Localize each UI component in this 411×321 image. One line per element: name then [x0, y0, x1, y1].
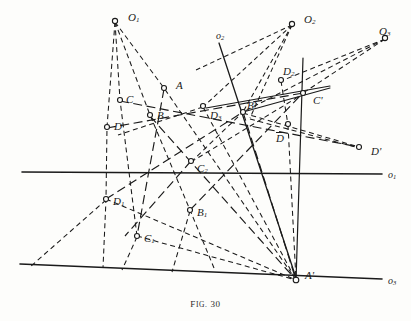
label-point-B: B [157, 110, 164, 121]
marker-D [105, 125, 110, 130]
marker-D3 [201, 104, 206, 109]
ray-O1-B-B1 [115, 22, 214, 268]
ray-O2-extended-left [196, 25, 292, 70]
marker-B1 [188, 208, 193, 213]
marker-D-prime [357, 145, 362, 150]
figure-plate: O1 O2 O3 o2 o1 o3 A B C D D1 C1 B1 C2 D3… [0, 0, 411, 321]
marker-C-prime [301, 91, 306, 96]
marker-C [118, 98, 123, 103]
geometry-diagram [0, 0, 411, 321]
label-point-D-bar: D [276, 132, 284, 144]
marker-C1 [135, 234, 140, 239]
long-dash-transversals [106, 89, 359, 280]
dashed-cross-connections [30, 81, 359, 280]
marker-A-prime [293, 277, 299, 283]
transversal-B-to-Aprime [150, 116, 296, 280]
label-center-O3: O3 [379, 26, 390, 38]
label-point-D: D [114, 121, 122, 132]
label-point-B1: B1 [197, 207, 207, 219]
ray-O3-to-D2 [281, 39, 385, 81]
marker-O2 [289, 21, 294, 26]
transversal-D-to-Cprime [107, 93, 303, 128]
label-point-D3: D3 [210, 110, 221, 122]
axis-o3-line [20, 264, 382, 279]
marker-B [148, 113, 153, 118]
label-axis-o3: o3 [388, 276, 396, 287]
ray-O3-to-Cprime [303, 39, 385, 93]
marker-B-prime [241, 110, 246, 115]
label-axis-o2: o2 [216, 31, 224, 42]
marker-C2 [189, 159, 194, 164]
label-point-D-prime: D' [371, 146, 382, 157]
transversal-C-to-Bprime-Dprime [120, 101, 359, 147]
marker-O1 [112, 18, 117, 23]
label-point-D2: D2 [283, 66, 294, 78]
marker-A [162, 86, 167, 91]
dashed-rays-from-O1 [103, 22, 296, 280]
label-point-A-prime: A' [305, 270, 315, 281]
figure-caption: FIG. 30 [0, 299, 411, 309]
marker-D2 [279, 78, 284, 83]
label-point-A: A [176, 80, 183, 91]
label-point-C1: C1 [144, 233, 155, 245]
transversal-right-fan [243, 112, 296, 280]
line-C1-to-Aprime [137, 236, 296, 280]
label-axis-o1: o1 [388, 170, 396, 181]
label-center-O2: O2 [304, 14, 315, 26]
line-Bprime-to-Dprime-lower [250, 119, 359, 148]
label-point-D1: D1 [113, 196, 124, 208]
label-center-O1: O1 [128, 12, 139, 24]
marker-D-bar [286, 122, 291, 127]
ray-O1-D-D1 [103, 22, 115, 268]
marker-D1 [104, 197, 109, 202]
line-D1-to-lower-axis [30, 200, 106, 267]
line-C1-to-lower-axis [122, 237, 137, 270]
label-point-B-prime: B' [247, 100, 257, 111]
line-D2-to-Dbar [281, 81, 288, 125]
label-point-C: C [126, 94, 133, 105]
label-point-C2: C2 [197, 163, 208, 175]
line-B1-to-lower-axis [172, 211, 190, 272]
label-point-C-prime: C' [313, 95, 323, 106]
